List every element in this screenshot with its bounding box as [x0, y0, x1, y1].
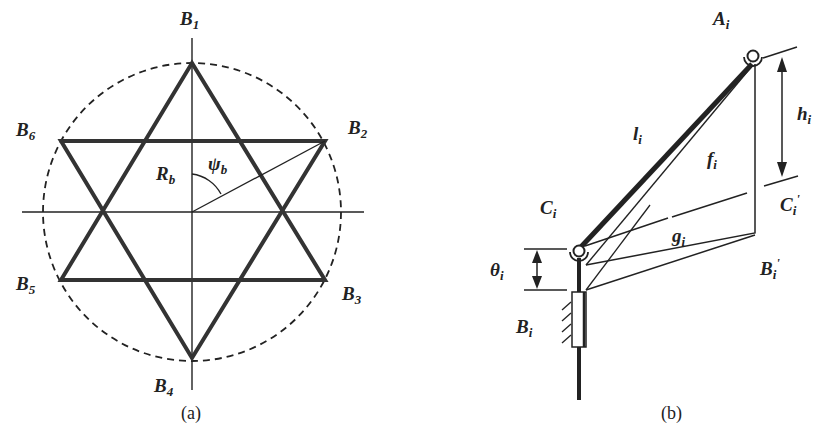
label-bi: Bi [515, 316, 533, 340]
label-psi-b: ψb [208, 153, 228, 177]
hatch [562, 324, 571, 332]
caption-a: (a) [181, 403, 201, 424]
joint-c-icon [574, 246, 585, 257]
diagram-canvas: B1 B2 B3 B4 B5 B6 Rb ψb (a) [0, 0, 818, 448]
label-fi: fi [707, 148, 717, 172]
label-b1: B1 [179, 8, 199, 32]
figure-b: Ai hi li fi Ci Ci' gi θi Bi' Bi (b) [490, 8, 812, 424]
link-li [580, 64, 752, 248]
line-fi [586, 66, 752, 265]
label-rb: Rb [155, 163, 176, 187]
label-b3: B3 [341, 283, 362, 307]
theta-arrow-down-icon [532, 276, 542, 289]
h-arrow-up-icon [777, 57, 787, 72]
label-b6: B6 [15, 119, 36, 143]
top-platform-line [763, 47, 797, 58]
label-b4: B4 [153, 375, 174, 399]
hatch [562, 313, 571, 321]
c-prime-line [764, 176, 798, 186]
line-gi-b [672, 193, 747, 217]
caption-b: (b) [661, 403, 682, 424]
label-gi: gi [671, 225, 686, 249]
label-b2: B2 [347, 117, 368, 141]
label-li: li [633, 123, 642, 147]
angle-arc [192, 174, 221, 194]
hatch [562, 302, 571, 310]
label-b5: B5 [15, 273, 36, 297]
label-bi-prime: Bi' [759, 255, 780, 282]
label-hi: hi [797, 103, 812, 127]
label-ci-prime: Ci' [780, 191, 800, 218]
theta-arrow-up-icon [532, 250, 542, 263]
triangle-b1-b3-b5 [61, 63, 325, 280]
line-b-fi [586, 205, 650, 290]
label-theta-i: θi [490, 259, 504, 283]
figure-a: B1 B2 B3 B4 B5 B6 Rb ψb (a) [15, 8, 368, 424]
label-ai: Ai [712, 8, 730, 32]
line-b-bprime [586, 235, 755, 290]
hatch [562, 335, 571, 343]
joint-a-icon [748, 51, 759, 62]
h-arrow-down-icon [777, 162, 787, 177]
label-ci: Ci [540, 197, 557, 221]
